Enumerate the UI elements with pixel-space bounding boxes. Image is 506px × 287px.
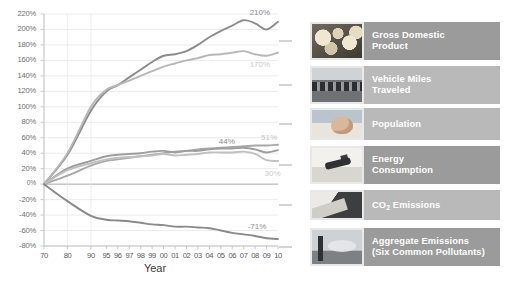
smokestack-dark-image	[310, 190, 364, 220]
x-axis-title: Year	[60, 262, 250, 274]
series-end-label: -71%	[248, 222, 267, 231]
legend-item-5[interactable]: CO2 Emissions	[310, 190, 500, 220]
y-tick-label: 20%	[2, 164, 36, 173]
thumbnail-art	[312, 230, 362, 264]
y-tick-label: 220%	[2, 9, 36, 18]
thumbnail-art	[312, 24, 362, 58]
y-tick-label: -20%	[2, 195, 36, 204]
legend-item-label: CO2 Emissions	[364, 200, 500, 211]
x-tick-label: 70	[35, 251, 53, 260]
legend-item-4[interactable]: EnergyConsumption	[310, 146, 500, 184]
series-end-label: 170%	[250, 60, 270, 69]
thumbnail-art	[312, 110, 362, 138]
series-end-label: 30%	[265, 169, 281, 178]
legend-item-label: Aggregate Emissions(Six Common Pollutant…	[364, 236, 500, 258]
traffic-image	[310, 66, 364, 104]
y-tick-label: 80%	[2, 117, 36, 126]
y-tick-label: 120%	[2, 86, 36, 95]
legend-item-label: Population	[364, 119, 500, 130]
y-tick-label: 0%	[2, 179, 36, 186]
series-end-label: 210%	[250, 8, 270, 17]
y-tick-label: 140%	[2, 71, 36, 80]
legend-item-1[interactable]: Gross DomesticProduct	[310, 22, 500, 60]
series-end-label: 51%	[261, 133, 277, 142]
baby-image	[310, 108, 364, 140]
chart-screenshot: 220%200%180%160%140%120%100%80%60%40%20%…	[0, 0, 506, 287]
legend-item-6[interactable]: Aggregate Emissions(Six Common Pollutant…	[310, 228, 500, 266]
y-tick-label: 40%	[2, 148, 36, 157]
y-tick-label: 180%	[2, 40, 36, 49]
y-tick-label: 60%	[2, 133, 36, 142]
coins-image	[310, 22, 364, 60]
chart-legend: Gross DomesticProductVehicle MilesTravel…	[300, 10, 500, 272]
chart-plot-area: 220%200%180%160%140%120%100%80%60%40%20%…	[0, 0, 292, 287]
y-tick-label: 160%	[2, 55, 36, 64]
x-tick-label: 80	[58, 251, 76, 260]
y-tick-label: 200%	[2, 24, 36, 33]
thumbnail-art	[312, 68, 362, 102]
legend-item-2[interactable]: Vehicle MilesTraveled	[310, 66, 500, 104]
factory-stacks-image	[310, 228, 364, 266]
y-tick-label: -60%	[2, 226, 36, 235]
gas-pump-image	[310, 146, 364, 184]
legend-item-3[interactable]: Population	[310, 108, 500, 140]
legend-item-label: Vehicle MilesTraveled	[364, 74, 500, 96]
y-tick-label: -40%	[2, 210, 36, 219]
y-tick-label: -80%	[2, 241, 36, 250]
legend-item-label: EnergyConsumption	[364, 154, 500, 176]
chart-svg	[0, 0, 292, 287]
legend-item-label: Gross DomesticProduct	[364, 30, 500, 52]
x-tick-label: 10	[269, 251, 287, 260]
series-end-label: 44%	[219, 137, 235, 146]
thumbnail-art	[312, 192, 362, 218]
thumbnail-art	[312, 148, 362, 182]
y-tick-label: 100%	[2, 102, 36, 111]
